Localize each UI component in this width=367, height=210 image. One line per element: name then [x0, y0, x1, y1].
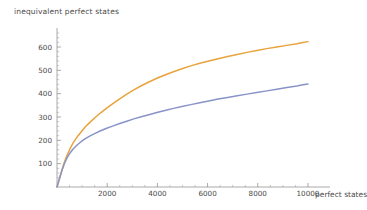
y-tick-label: 100 — [38, 159, 52, 168]
y-tick-label: 200 — [38, 136, 52, 145]
axis-ticks — [57, 33, 308, 187]
x-tick-label: 4000 — [148, 189, 167, 198]
axis-tick-labels: 200040006000800010000100200300400500600 — [38, 43, 320, 198]
x-tick-label: 8000 — [249, 189, 268, 198]
x-tick-label: 6000 — [198, 189, 217, 198]
data-series — [57, 42, 308, 187]
series-line-lower-curve — [57, 84, 308, 187]
y-tick-label: 300 — [38, 113, 52, 122]
y-tick-label: 400 — [38, 89, 52, 98]
x-tick-label: 10000 — [297, 189, 320, 198]
series-line-upper-curve — [57, 42, 308, 187]
y-tick-label: 600 — [38, 43, 52, 52]
x-tick-label: 2000 — [98, 189, 117, 198]
y-tick-label: 500 — [38, 66, 52, 75]
